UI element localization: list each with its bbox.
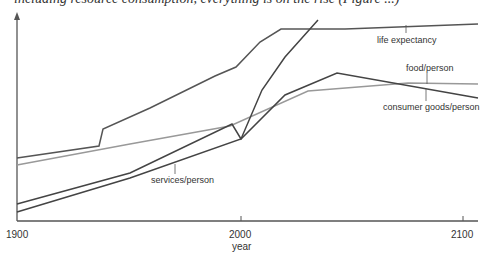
- y-axis-arrow-icon: [14, 12, 20, 20]
- series-consumer-goods-person: [17, 73, 478, 204]
- tick-label-1900: 1900: [6, 229, 29, 240]
- label-life-expectancy: life expectancy: [377, 35, 437, 45]
- label-consumer-goods-person: consumer goods/person: [383, 102, 480, 112]
- y-axis: [14, 12, 20, 221]
- chart: life expectancy food/person consumer goo…: [0, 0, 489, 257]
- label-services-person: services/person: [151, 175, 214, 185]
- x-axis-label: year: [232, 241, 252, 252]
- label-food-person: food/person: [406, 63, 454, 73]
- tick-label-2100: 2100: [451, 229, 474, 240]
- x-axis: [17, 216, 478, 221]
- tick-label-2000: 2000: [229, 229, 252, 240]
